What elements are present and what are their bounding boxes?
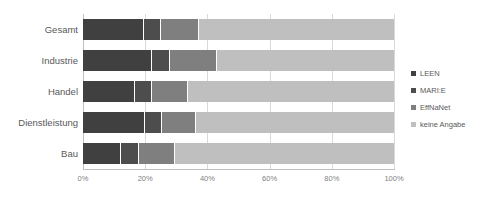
chart-legend: LEENMARI:EEffNaNetkeine Angabe	[411, 66, 485, 134]
bar-segment	[83, 50, 152, 71]
legend-swatch-icon	[411, 122, 416, 127]
plot-area	[83, 14, 394, 169]
legend-swatch-icon	[411, 71, 416, 76]
legend-item[interactable]: LEEN	[411, 66, 485, 81]
bar-segment	[145, 112, 162, 133]
bar-segment	[83, 19, 144, 40]
legend-item[interactable]: MARI:E	[411, 83, 485, 98]
x-axis-tick-label: 20%	[138, 174, 153, 183]
legend-swatch-icon	[411, 88, 416, 93]
bar-segment	[170, 50, 217, 71]
x-axis-tick-label: 40%	[200, 174, 215, 183]
legend-item[interactable]: keine Angabe	[411, 117, 485, 132]
x-axis-tick-label: 60%	[262, 174, 277, 183]
bar-segment	[217, 50, 394, 71]
bar-row	[83, 143, 394, 164]
legend-label: LEEN	[420, 69, 440, 78]
bar-segment	[175, 143, 394, 164]
bar-segment	[135, 81, 152, 102]
y-axis-label-handel: Handel	[2, 81, 78, 102]
y-axis-label-gesamt: Gesamt	[2, 19, 78, 40]
bar-row	[83, 50, 394, 71]
bar-segment	[83, 81, 135, 102]
bar-segment	[196, 112, 394, 133]
bar-segment	[83, 143, 121, 164]
legend-swatch-icon	[411, 105, 416, 110]
bar-segment	[121, 143, 139, 164]
bar-segment	[144, 19, 161, 40]
legend-item[interactable]: EffNaNet	[411, 100, 485, 115]
bar-segment	[188, 81, 394, 102]
bar-row	[83, 112, 394, 133]
gridline-100pct	[394, 14, 395, 169]
bar-segment	[162, 112, 196, 133]
x-axis-line	[83, 169, 395, 170]
stacked-bar-chart: GesamtIndustrieHandelDienstleistungBau 0…	[0, 0, 486, 200]
x-axis-tick-label: 0%	[78, 174, 89, 183]
y-axis-label-industrie: Industrie	[2, 50, 78, 71]
y-axis-category-labels: GesamtIndustrieHandelDienstleistungBau	[0, 14, 78, 169]
bar-row	[83, 19, 394, 40]
x-axis-tick-label: 80%	[324, 174, 339, 183]
legend-label: keine Angabe	[420, 120, 465, 129]
bar-segment	[161, 19, 199, 40]
bar-row	[83, 81, 394, 102]
x-axis-tick-label: 100%	[384, 174, 403, 183]
y-axis-label-bau: Bau	[2, 143, 78, 164]
bar-segment	[152, 50, 170, 71]
legend-label: MARI:E	[420, 86, 446, 95]
bar-segment	[199, 19, 394, 40]
bar-segment	[139, 143, 175, 164]
y-axis-label-dienstleistung: Dienstleistung	[2, 112, 78, 133]
bar-segment	[83, 112, 145, 133]
legend-label: EffNaNet	[420, 103, 450, 112]
bar-segment	[152, 81, 188, 102]
